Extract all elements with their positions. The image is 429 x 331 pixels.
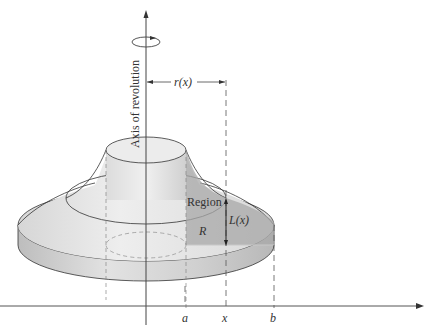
height-label: L(x) bbox=[228, 213, 249, 227]
axis-label: Axis of revolution bbox=[128, 60, 142, 148]
region-name-label: R bbox=[198, 224, 207, 238]
shell-method-diagram: r(x) L(x) Region R Axis of revolution a … bbox=[0, 0, 429, 331]
axis-arrowhead-icon bbox=[144, 10, 149, 18]
tick-b: b bbox=[270, 311, 276, 325]
tick-a: a bbox=[182, 311, 188, 325]
radius-label: r(x) bbox=[174, 75, 192, 89]
x-axis-arrowhead-icon bbox=[416, 303, 424, 309]
tick-x: x bbox=[221, 311, 228, 325]
region-label: Region bbox=[187, 195, 222, 209]
